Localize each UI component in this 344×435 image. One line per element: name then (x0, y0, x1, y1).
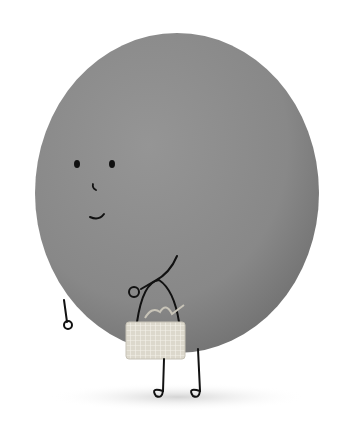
illustration-scene (0, 0, 344, 435)
left-eye (74, 160, 80, 168)
ground-shadow (48, 383, 308, 411)
basket (126, 322, 185, 359)
body-ball (35, 33, 319, 353)
right-eye (109, 160, 115, 168)
right-leg (191, 349, 200, 397)
left-arm (64, 300, 72, 329)
character-illustration (0, 0, 344, 435)
